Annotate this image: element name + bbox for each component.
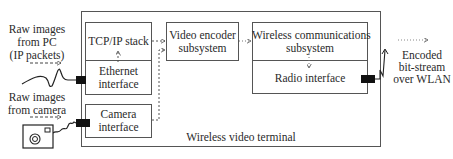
output-label: Encoded bit-stream over WLAN <box>393 49 451 85</box>
radio-interface-label: Radio interface <box>252 72 368 84</box>
cable-icon <box>22 69 76 86</box>
tcp-ip-stack-label: TCP/IP stack <box>85 35 152 47</box>
camera-interface-label: Camera interface <box>85 108 152 134</box>
antenna-icon <box>375 49 388 79</box>
wireless-comm-label: Wireless communications subsystem <box>252 29 368 55</box>
camera-icon <box>23 125 53 148</box>
video-encoder-label: Video encoder subsystem <box>166 29 239 55</box>
camera-cable-icon <box>53 122 76 133</box>
ethernet-interface-label: Ethernet interface <box>85 65 152 91</box>
pc-input-label: Raw images from PC (IP packets) <box>6 23 68 62</box>
camera-input-label: Raw images from camera <box>2 91 72 117</box>
camera-to-encoder-arrow <box>152 50 165 120</box>
terminal-label: Wireless video terminal <box>186 131 296 143</box>
